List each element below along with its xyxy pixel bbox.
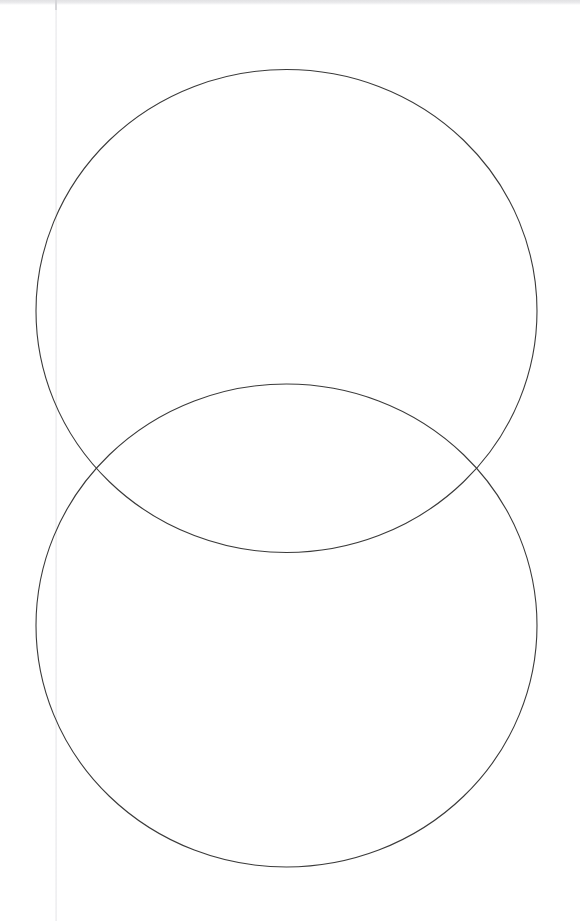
lower-circle bbox=[36, 384, 537, 867]
two-overlapping-circles-figure bbox=[0, 0, 580, 921]
upper-circle bbox=[36, 70, 537, 553]
page-canvas bbox=[0, 0, 580, 921]
